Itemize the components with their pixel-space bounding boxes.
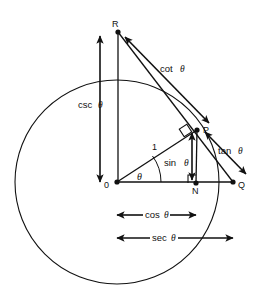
label-cot: cot θ (160, 63, 185, 74)
vertex-Q (230, 179, 235, 184)
label-angle-theta: θ (137, 171, 142, 182)
label-sin: sin θ (164, 157, 189, 168)
label-cos-theta: θ (164, 210, 169, 220)
label-tan-theta: θ (238, 146, 243, 156)
label-csc: csc θ (78, 99, 103, 110)
label-point-P: P (203, 125, 209, 135)
label-csc-theta: θ (98, 100, 103, 110)
vertex-P (194, 127, 199, 132)
label-point-Q: Q (238, 180, 245, 190)
label-tan: tan θ (218, 145, 243, 156)
vertex-R (115, 29, 120, 34)
label-sec-theta: θ (171, 233, 176, 243)
label-radius-one: 1 (152, 142, 157, 152)
trig-diagram: R P Q N 0 1 θ csc θ cot θ tan θ sin θ co… (0, 0, 263, 300)
label-cot-text: cot (160, 63, 173, 74)
label-sec-text: sec (152, 232, 167, 243)
perpendicular-PN (196, 130, 197, 183)
label-point-R: R (112, 19, 119, 29)
label-cot-theta: θ (180, 64, 185, 74)
measure-arrow-cot (125, 37, 209, 123)
label-sec: sec θ (152, 232, 176, 243)
label-csc-text: csc (78, 99, 93, 110)
vertex-N (193, 180, 198, 185)
label-cos: cos θ (145, 209, 169, 220)
label-point-origin: 0 (104, 180, 109, 190)
radius-OP (117, 130, 197, 182)
label-cos-text: cos (145, 209, 160, 220)
label-sin-text: sin (164, 157, 176, 168)
label-tan-text: tan (218, 145, 231, 156)
angle-arc-theta (153, 156, 162, 182)
vertex-origin (114, 179, 119, 184)
label-point-N: N (192, 186, 199, 196)
diagram-canvas: R P Q N 0 1 θ csc θ cot θ tan θ sin θ co… (0, 0, 263, 300)
label-sin-theta: θ (184, 158, 189, 168)
